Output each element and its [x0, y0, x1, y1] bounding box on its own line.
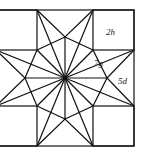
label-2h: 2h	[106, 27, 116, 37]
corner-square-top-left	[0, 10, 37, 50]
quilt-star-diagram: 2h 7g 5d	[0, 0, 141, 148]
label-5d: 5d	[118, 76, 128, 86]
label-7g: 7g	[94, 58, 104, 68]
star-point-bottom	[37, 119, 93, 146]
center-point	[63, 76, 66, 79]
star-point-top	[37, 10, 93, 37]
corner-square-bottom-left	[0, 106, 37, 146]
star-point-left	[0, 50, 25, 106]
corner-square-bottom-right	[93, 106, 134, 146]
